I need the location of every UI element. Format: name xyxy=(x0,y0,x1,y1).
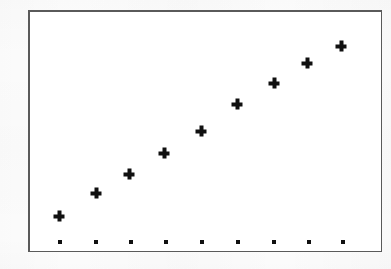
marker-vertical-bar xyxy=(94,188,98,199)
axis-tick-dot xyxy=(94,240,98,244)
marker-vertical-bar xyxy=(162,148,166,159)
axis-tick-dot xyxy=(272,240,276,244)
data-point-marker xyxy=(196,126,207,137)
axis-tick-dot xyxy=(236,240,240,244)
data-point-marker xyxy=(302,58,313,69)
data-point-marker xyxy=(269,78,280,89)
axis-tick-dot xyxy=(341,240,345,244)
scatter-plot-figure xyxy=(0,0,391,269)
axis-tick-dot xyxy=(58,240,62,244)
axis-tick-dot xyxy=(129,240,133,244)
data-point-marker xyxy=(159,148,170,159)
axis-tick-dot xyxy=(164,240,168,244)
axis-tick-dot xyxy=(307,240,311,244)
marker-vertical-bar xyxy=(57,211,61,222)
marker-vertical-bar xyxy=(272,78,276,89)
data-point-marker xyxy=(91,188,102,199)
data-point-marker xyxy=(232,99,243,110)
data-point-marker xyxy=(54,211,65,222)
marker-vertical-bar xyxy=(339,41,343,52)
axis-tick-dot xyxy=(200,240,204,244)
plot-frame xyxy=(28,10,382,252)
data-point-marker xyxy=(124,169,135,180)
marker-vertical-bar xyxy=(127,169,131,180)
marker-vertical-bar xyxy=(235,99,239,110)
data-point-marker xyxy=(336,41,347,52)
marker-vertical-bar xyxy=(199,126,203,137)
plot-area xyxy=(28,10,382,252)
marker-vertical-bar xyxy=(305,58,309,69)
